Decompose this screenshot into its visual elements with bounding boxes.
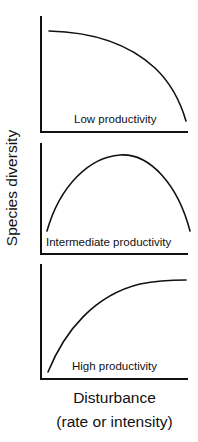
panel-1-curve-decreasing <box>49 31 186 121</box>
x-axis-label-line1: Disturbance <box>41 389 188 407</box>
figure-canvas: Low productivity Intermediate productivi… <box>0 0 198 442</box>
x-axis-label-line2: (rate or intensity) <box>41 413 188 431</box>
diversity-disturbance-diagram <box>0 0 198 442</box>
panel-2-curve-hump <box>47 155 190 231</box>
panel-1-label: Low productivity <box>74 113 156 125</box>
y-axis-label: Species diversity <box>3 130 21 246</box>
panel-3-curve-increasing <box>48 280 186 372</box>
panel-2-label: Intermediate productivity <box>46 236 171 248</box>
panel-3-label: High productivity <box>72 360 157 372</box>
